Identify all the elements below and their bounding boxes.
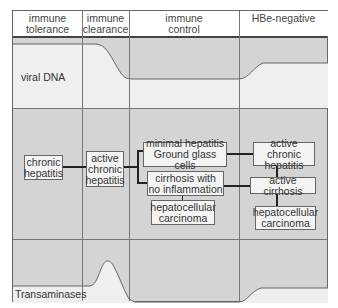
- box-line: cirrhosis with: [148, 173, 222, 184]
- box-line: hepatitis: [24, 168, 63, 179]
- box-line: carcinoma: [150, 213, 215, 224]
- box-line: no inflammation: [148, 184, 222, 195]
- box-active-chronic-hepatitis-2: active chronichepatitis: [253, 142, 315, 166]
- viral-dna-label: viral DNA: [21, 71, 65, 83]
- box-line: chronic: [85, 164, 124, 175]
- box-line: Ground glass cells: [144, 149, 226, 171]
- box-line: hepatitis: [254, 160, 314, 171]
- box-hepatocellular-carcinoma-1: hepatocellularcarcinoma: [151, 200, 215, 225]
- box-active-cirrhosis: active cirrhosis: [250, 177, 316, 194]
- diagram-frame: immune tolerance immune clearance immune…: [12, 10, 328, 302]
- box-line: hepatitis: [85, 175, 124, 186]
- header-divider: [13, 36, 327, 38]
- connector: [62, 166, 87, 168]
- box-line: active cirrhosis: [251, 175, 315, 197]
- column-divider: [129, 11, 130, 301]
- transaminases-label: Transaminases: [15, 288, 86, 300]
- box-cirrhosis-no-inflammation: cirrhosis withno inflammation: [147, 171, 224, 196]
- column-divider: [239, 11, 240, 301]
- box-minimal-hepatitis: minimal hepatitisGround glass cells: [143, 142, 227, 167]
- connector: [223, 185, 253, 187]
- connector: [137, 150, 139, 184]
- row-divider: [13, 239, 327, 240]
- box-line: hepatocellular: [150, 202, 215, 213]
- box-line: chronic: [24, 157, 63, 168]
- box-line: active: [85, 153, 124, 164]
- box-active-chronic-hepatitis: activechronichepatitis: [86, 151, 124, 187]
- box-line: active chronic: [254, 138, 314, 160]
- column-divider: [82, 11, 83, 301]
- connector: [123, 166, 137, 168]
- box-hepatocellular-carcinoma-2: hepatocellularcarcinoma: [255, 206, 316, 230]
- box-line: carcinoma: [253, 218, 318, 229]
- connector: [226, 153, 253, 155]
- row-divider: [13, 108, 327, 109]
- box-chronic-hepatitis: chronichepatitis: [24, 155, 63, 180]
- connector: [137, 182, 147, 184]
